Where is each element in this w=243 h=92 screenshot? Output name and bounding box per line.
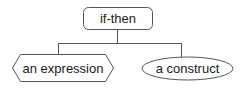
root-node-label: if-then bbox=[100, 11, 136, 26]
root-node: if-then bbox=[84, 8, 153, 30]
child-node-expression: an expression bbox=[13, 55, 114, 82]
connectors bbox=[59, 30, 182, 57]
child-node-expression-label: an expression bbox=[23, 61, 104, 76]
child-node-construct-label: a construct bbox=[156, 61, 220, 76]
tree-diagram: if-then an expression a construct bbox=[0, 0, 243, 92]
child-node-construct: a construct bbox=[142, 57, 233, 80]
